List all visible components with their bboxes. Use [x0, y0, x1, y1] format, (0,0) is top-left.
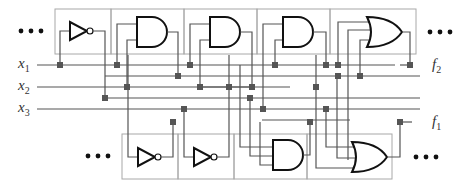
not-gate-bottom-1	[128, 55, 173, 166]
switch	[357, 73, 363, 79]
switch	[260, 106, 266, 112]
input-label-x2: x2	[17, 77, 30, 96]
or-gate-bottom	[316, 55, 400, 172]
switch	[114, 62, 120, 68]
switch	[57, 62, 63, 68]
switch	[407, 62, 413, 68]
switch	[175, 73, 181, 79]
and-gate-bottom	[240, 65, 310, 170]
switch	[187, 62, 193, 68]
switch	[335, 62, 341, 68]
switch	[323, 106, 329, 112]
switch	[323, 62, 329, 68]
output-label-f1: f1	[432, 113, 441, 132]
switch	[307, 119, 313, 125]
input-label-x1: x1	[17, 55, 30, 74]
switch	[197, 84, 203, 90]
ellipsis-bottom-left	[86, 154, 111, 159]
switch	[124, 84, 130, 90]
ellipsis-top-left	[19, 29, 44, 34]
switch	[272, 62, 278, 68]
ellipsis-bottom-right	[414, 155, 439, 160]
switch	[170, 119, 176, 125]
switch	[313, 84, 319, 90]
circuit-diagram: x1 x2 x3 f2 f1	[0, 0, 463, 191]
ellipsis-top-right	[428, 30, 453, 35]
switch	[102, 95, 108, 101]
switch	[249, 84, 255, 90]
switch	[397, 119, 403, 125]
switch	[335, 73, 341, 79]
not-gate-bottom-2	[184, 55, 229, 166]
or-gate-top	[338, 17, 410, 160]
input-label-x3: x3	[17, 99, 30, 118]
switch	[181, 106, 187, 112]
switch	[226, 84, 232, 90]
switch	[247, 95, 253, 101]
output-label-f2: f2	[432, 56, 441, 75]
